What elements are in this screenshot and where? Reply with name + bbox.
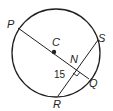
label-c: C	[52, 36, 60, 48]
segment-length-label: 15	[54, 69, 66, 80]
label-s: S	[98, 32, 106, 44]
label-n: N	[70, 53, 78, 65]
geometry-diagram: P C S N Q R 15	[0, 0, 113, 111]
right-angle-mark	[73, 72, 80, 76]
center-point	[52, 50, 56, 54]
label-p: P	[7, 18, 15, 30]
label-q: Q	[89, 77, 98, 89]
label-r: R	[53, 98, 61, 110]
circle-figure: P C S N Q R 15	[0, 0, 113, 111]
circle-outline	[12, 9, 100, 97]
